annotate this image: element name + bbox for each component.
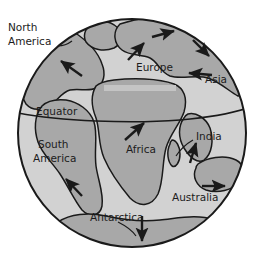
label-north-america-line1: North (8, 21, 37, 33)
label-south-america-line2: America (33, 152, 76, 164)
label-equator: Equator (36, 105, 78, 117)
continental-drift-figure: North America Europe Asia Equator South … (0, 0, 257, 262)
label-australia: Australia (172, 191, 218, 203)
label-india: India (196, 130, 222, 142)
label-north-america-line2: America (8, 35, 51, 47)
label-europe: Europe (136, 61, 173, 73)
tethys-sea-band (104, 85, 176, 91)
label-africa: Africa (126, 143, 156, 155)
label-south-america-line1: South (38, 138, 69, 150)
label-antarctica: Antarctica (90, 211, 144, 223)
globe-diagram-svg: North America Europe Asia Equator South … (0, 0, 257, 262)
label-asia: Asia (205, 73, 227, 85)
